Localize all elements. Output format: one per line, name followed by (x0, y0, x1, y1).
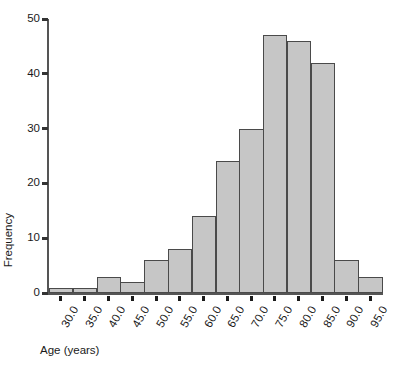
x-axis-tick (178, 296, 181, 301)
x-axis-tick-label: 65.0 (225, 304, 247, 329)
y-axis-tick-label-text: 30 (14, 123, 40, 135)
x-axis-title: Age (years) (40, 344, 99, 357)
x-axis-tick (345, 296, 348, 301)
y-axis-tick-label-text: 40 (14, 68, 40, 80)
x-axis-tick (131, 296, 134, 301)
x-axis-tick-label: 60.0 (201, 304, 223, 329)
x-axis-tick (83, 296, 86, 301)
x-axis-tick (369, 296, 372, 301)
y-axis-tick-label-text: 0 (14, 287, 40, 299)
x-axis-tick (202, 296, 205, 301)
histogram-bar (49, 288, 73, 293)
histogram-bar (120, 282, 144, 293)
x-axis-tick-label: 40.0 (106, 304, 128, 329)
x-axis-tick-label: 80.0 (297, 304, 319, 329)
histogram-bar (334, 260, 358, 293)
y-axis-tick-label-text: 20 (14, 177, 40, 189)
histogram-bar (73, 288, 97, 293)
x-axis-tick-label: 85.0 (320, 304, 342, 329)
x-axis-tick-label: 50.0 (154, 304, 176, 329)
histogram-bar (358, 277, 382, 293)
x-axis-tick (107, 296, 110, 301)
x-axis-line (47, 293, 383, 295)
y-axis-tick (42, 237, 48, 240)
x-axis-tick (297, 296, 300, 301)
y-axis-tick (42, 18, 48, 21)
x-axis-tick-label: 95.0 (368, 304, 390, 329)
x-axis-tick-label: 70.0 (249, 304, 271, 329)
histogram-bar (97, 277, 121, 293)
y-axis-tick-label: 50 (8, 13, 40, 25)
histogram-bar (239, 129, 263, 293)
x-axis-tick-label: 90.0 (344, 304, 366, 329)
x-axis-tick (321, 296, 324, 301)
histogram-bar (311, 63, 335, 293)
histogram-bar (287, 41, 311, 293)
x-axis-tick (226, 296, 229, 301)
y-axis-title: Frequency (2, 213, 14, 267)
y-axis-tick (42, 182, 48, 185)
x-axis-tick (155, 296, 158, 301)
y-axis-tick (42, 292, 48, 295)
y-axis-tick-label: 0 (8, 287, 40, 299)
histogram-bar (216, 161, 240, 293)
x-axis-tick-label: 55.0 (178, 304, 200, 329)
y-axis-tick-label-text: 50 (14, 13, 40, 25)
x-axis-tick-label: 35.0 (82, 304, 104, 329)
x-axis-tick-label: 75.0 (273, 304, 295, 329)
y-axis-tick-label: 30 (8, 123, 40, 135)
y-axis-tick-label-text: 10 (14, 232, 40, 244)
y-axis-tick (42, 127, 48, 130)
x-axis-tick (250, 296, 253, 301)
histogram-chart: 01020304050 30.035.040.045.050.055.060.0… (0, 0, 405, 370)
y-axis-tick (42, 72, 48, 75)
x-axis-tick-label: 45.0 (130, 304, 152, 329)
histogram-bar (144, 260, 168, 293)
x-axis-tick (59, 296, 62, 301)
y-axis-tick-label: 40 (8, 68, 40, 80)
x-axis-tick-label: 30.0 (59, 304, 81, 329)
histogram-bar (263, 35, 287, 293)
histogram-bar (168, 249, 192, 293)
plot-area (49, 19, 382, 293)
histogram-bar (192, 216, 216, 293)
y-axis-tick-label: 20 (8, 177, 40, 189)
x-axis-tick (273, 296, 276, 301)
